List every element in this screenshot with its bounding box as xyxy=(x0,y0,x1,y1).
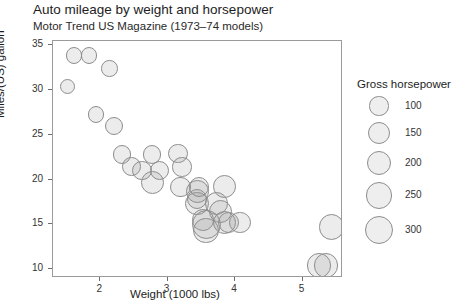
x-axis-tick-label: 2 xyxy=(84,283,114,294)
plot-panel xyxy=(52,40,342,277)
legend-item: 200 xyxy=(357,151,459,175)
data-point xyxy=(81,47,97,63)
x-axis-label: Weight (1000 lbs) xyxy=(130,288,220,300)
y-axis-tick-label: 20 xyxy=(23,173,43,184)
y-axis-tick-label: 25 xyxy=(23,128,43,139)
legend-title: Gross horsepower xyxy=(357,78,451,90)
legend-item: 300 xyxy=(357,216,459,244)
chart-root: Auto mileage by weight and horsepower Mo… xyxy=(0,0,462,305)
chart-subtitle: Motor Trend US Magazine (1973–74 models) xyxy=(33,20,263,32)
data-point xyxy=(319,214,341,239)
data-point xyxy=(314,253,339,276)
legend-label: 150 xyxy=(405,127,422,138)
y-axis-tick xyxy=(48,44,52,45)
x-axis-tick xyxy=(167,277,168,281)
y-axis-tick xyxy=(48,268,52,269)
legend-bubble xyxy=(366,182,392,208)
scatter-plot-area xyxy=(53,41,341,276)
y-axis-tick xyxy=(48,223,52,224)
y-axis-tick xyxy=(48,134,52,135)
x-axis-tick xyxy=(302,277,303,281)
legend-item: 250 xyxy=(357,182,459,208)
y-axis-tick xyxy=(48,179,52,180)
data-point xyxy=(66,47,82,63)
y-axis-label: Miles/(US) gallon xyxy=(0,30,6,118)
legend-bubble xyxy=(369,96,388,115)
y-axis-tick-label: 30 xyxy=(23,83,43,94)
legend-item: 100 xyxy=(357,96,459,115)
y-axis-tick-label: 15 xyxy=(23,217,43,228)
data-point xyxy=(189,177,209,197)
y-axis-tick-label: 10 xyxy=(23,262,43,273)
data-point xyxy=(150,161,169,180)
data-point xyxy=(172,157,191,176)
data-point xyxy=(101,60,117,76)
x-axis-tick-label: 5 xyxy=(287,283,317,294)
legend-bubble xyxy=(365,216,393,244)
data-point xyxy=(60,79,75,94)
legend-bubble xyxy=(367,151,391,175)
legend-label: 200 xyxy=(405,157,422,168)
legend-item: 150 xyxy=(357,122,459,144)
data-point xyxy=(105,117,123,135)
x-axis-tick-label: 4 xyxy=(219,283,249,294)
data-point xyxy=(213,175,236,198)
y-axis-tick xyxy=(48,89,52,90)
legend-label: 250 xyxy=(405,189,422,200)
chart-title: Auto mileage by weight and horsepower xyxy=(33,2,273,17)
x-axis-tick xyxy=(234,277,235,281)
legend-label: 300 xyxy=(405,224,422,235)
legend-bubble xyxy=(368,122,390,144)
y-axis-tick-label: 35 xyxy=(23,38,43,49)
data-point xyxy=(88,106,104,122)
x-axis-tick xyxy=(99,277,100,281)
data-point xyxy=(229,212,251,234)
legend-label: 100 xyxy=(405,100,422,111)
